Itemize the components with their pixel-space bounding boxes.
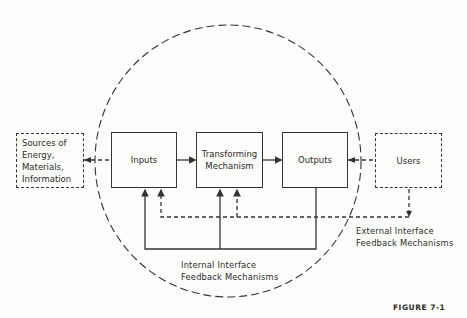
node-transforming-mechanism: Transforming Mechanism	[196, 132, 263, 188]
node-sources: Sources of Energy, Materials, Informatio…	[16, 133, 84, 188]
node-users: Users	[375, 133, 442, 188]
external-feedback-label: External Interface Feedback Mechanisms	[356, 225, 453, 249]
internal-feedback-label: Internal Interface Feedback Mechanisms	[181, 259, 278, 283]
node-inputs: Inputs	[111, 132, 177, 188]
node-outputs: Outputs	[282, 132, 348, 188]
figure-label: FIGURE 7-1	[393, 303, 445, 312]
